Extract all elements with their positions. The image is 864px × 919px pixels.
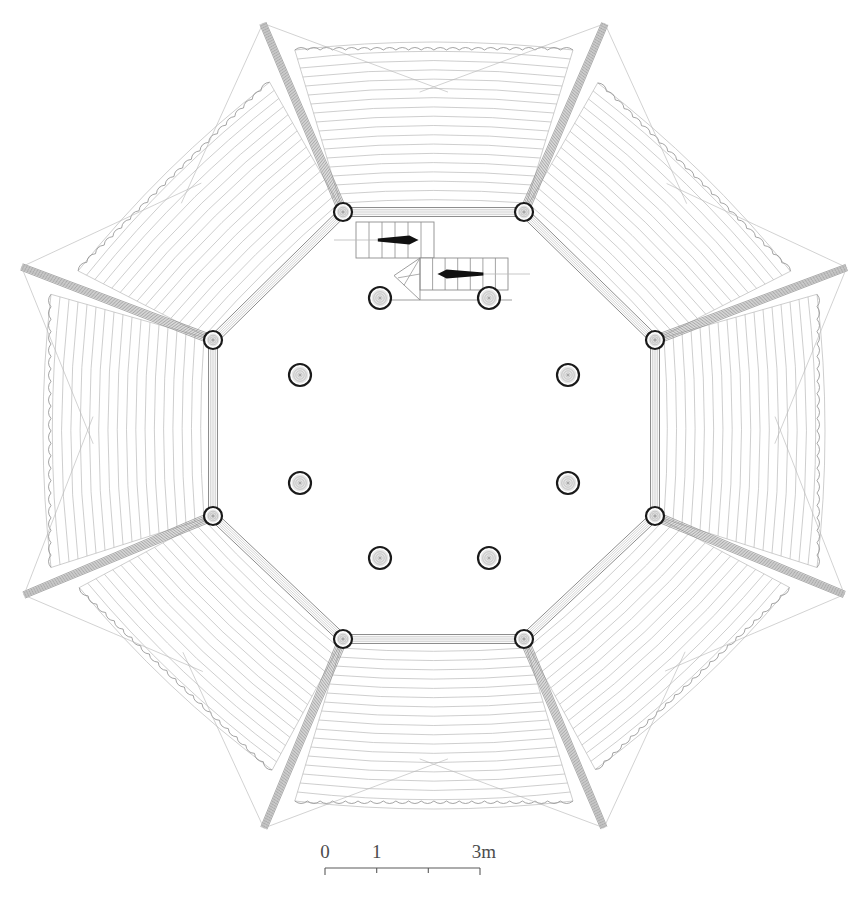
interior-column [478, 547, 500, 569]
interior-column [289, 364, 311, 386]
interior-column [557, 364, 579, 386]
corner-column [204, 507, 222, 525]
corner-column [204, 331, 222, 349]
interior-column [369, 287, 391, 309]
corner-column [515, 630, 533, 648]
plan-canvas: 0 1 3m [0, 0, 864, 919]
interior-column [289, 472, 311, 494]
scale-label-end: 3m [472, 841, 497, 862]
scale-label-start: 0 [320, 841, 330, 862]
interior-column [369, 547, 391, 569]
scale-label-mid: 1 [372, 841, 382, 862]
corner-column [334, 203, 352, 221]
corner-column [334, 630, 352, 648]
interior-column [557, 472, 579, 494]
corner-column [646, 331, 664, 349]
interior-column [478, 287, 500, 309]
corner-column [515, 203, 533, 221]
corner-column [646, 507, 664, 525]
floor-plan-drawing: 0 1 3m [0, 0, 864, 919]
